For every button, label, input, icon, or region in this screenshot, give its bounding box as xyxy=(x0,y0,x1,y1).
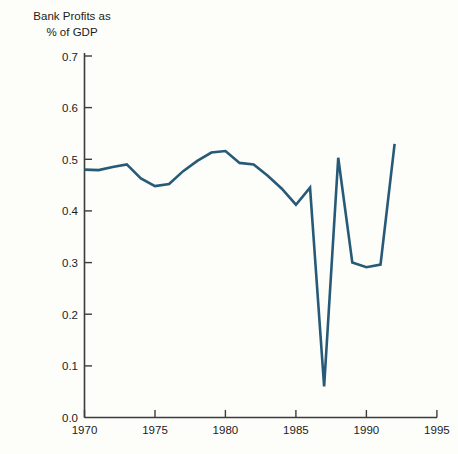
chart-title: Bank Profits as % of GDP xyxy=(33,10,111,38)
data-series-line xyxy=(85,144,395,387)
chart-container: Bank Profits as % of GDP 0.7 0.6 0.5 0.4… xyxy=(0,0,458,454)
x-tick-label-1980: 1980 xyxy=(213,424,239,436)
y-tick-label-0.4: 0.4 xyxy=(62,205,79,217)
y-tick-label-0.0: 0.0 xyxy=(62,412,78,424)
y-tick-label-0.2: 0.2 xyxy=(62,309,78,321)
x-axis-ticks xyxy=(85,410,437,418)
x-tick-label-1975: 1975 xyxy=(142,424,168,436)
chart-title-line-2: % of GDP xyxy=(46,26,97,38)
x-tick-label-1970: 1970 xyxy=(72,424,98,436)
y-axis-tick-labels: 0.7 0.6 0.5 0.4 0.3 0.2 0.1 0.0 xyxy=(62,51,79,424)
y-tick-label-0.6: 0.6 xyxy=(62,102,78,114)
x-tick-label-1985: 1985 xyxy=(283,424,309,436)
bank-profits-line-chart: Bank Profits as % of GDP 0.7 0.6 0.5 0.4… xyxy=(0,0,458,454)
x-tick-label-1995: 1995 xyxy=(424,424,450,436)
x-tick-label-1990: 1990 xyxy=(354,424,380,436)
y-axis-ticks xyxy=(85,56,93,366)
y-tick-label-0.7: 0.7 xyxy=(62,51,78,63)
y-tick-label-0.5: 0.5 xyxy=(62,154,78,166)
x-axis-tick-labels: 1970 1975 1980 1985 1990 1995 xyxy=(72,424,450,436)
y-tick-label-0.1: 0.1 xyxy=(62,360,78,372)
chart-title-line-1: Bank Profits as xyxy=(33,10,111,22)
y-tick-label-0.3: 0.3 xyxy=(62,257,78,269)
